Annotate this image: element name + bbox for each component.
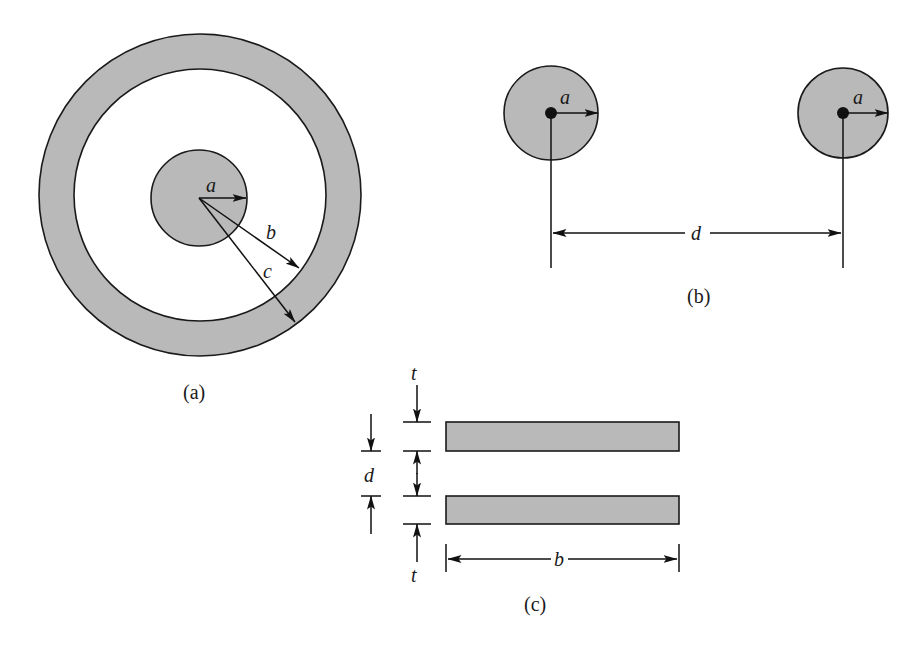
label-right-a: a: [853, 86, 863, 108]
label-b-width: b: [554, 548, 564, 570]
label-bottom-t: t: [411, 564, 417, 586]
bottom-plate: [446, 496, 679, 524]
figure-c-parallel-plate: t t d b (c): [361, 362, 679, 616]
label-a: a: [206, 174, 216, 196]
caption-a: (a): [183, 381, 205, 404]
caption-c: (c): [524, 593, 546, 616]
caption-b: (b): [687, 285, 710, 308]
label-d: d: [691, 222, 702, 244]
label-top-t: t: [411, 362, 417, 384]
label-d-plates: d: [364, 464, 375, 486]
figure-a-coaxial: a b c (a): [39, 34, 361, 404]
diagram-canvas: a b c (a) a a d (b) t: [0, 0, 920, 649]
figure-b-two-wire: a a d (b): [504, 66, 888, 308]
top-plate: [446, 422, 679, 451]
label-left-a: a: [560, 86, 570, 108]
label-c: c: [263, 260, 272, 282]
label-b: b: [266, 221, 276, 243]
